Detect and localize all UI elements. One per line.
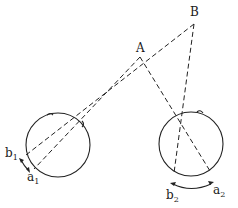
diagram-canvas: B A b1 a1 b2 a2 — [0, 0, 238, 208]
label-a2: a2 — [213, 183, 225, 199]
right-eye — [159, 111, 223, 189]
label-point-a: A — [135, 41, 145, 55]
label-b1: b1 — [5, 146, 18, 162]
left-eye-circle — [26, 113, 90, 177]
right-eye-double-arrow — [173, 184, 211, 189]
label-a1: a1 — [27, 170, 39, 186]
right-eye-circle — [159, 112, 223, 176]
label-point-b: B — [190, 5, 199, 19]
left-eye — [19, 113, 90, 177]
left-arrowhead-up — [19, 158, 24, 163]
line-a-to-right-eye — [140, 57, 210, 171]
line-b-to-left-eye — [26, 24, 194, 155]
label-b2: b2 — [166, 188, 179, 204]
line-b-to-right-eye — [174, 24, 194, 173]
